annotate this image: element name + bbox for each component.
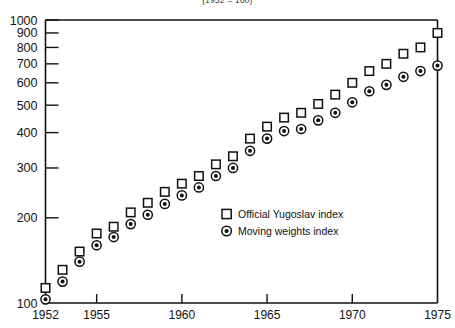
data-point-official-1970 (348, 79, 357, 88)
data-point-official-1960 (178, 179, 187, 188)
data-point-moving-1967-dot (299, 127, 303, 131)
data-point-official-1971 (365, 67, 374, 76)
data-point-moving-1969-dot (333, 111, 337, 115)
data-point-moving-1962-dot (214, 174, 218, 178)
y-tick-label-1000: 1000 (10, 14, 38, 28)
data-point-moving-1961-dot (197, 185, 201, 189)
legend-marker-moving-dot (225, 229, 229, 233)
data-point-official-1963 (229, 152, 238, 161)
data-point-moving-1957-dot (129, 222, 133, 226)
data-point-official-1974 (416, 43, 425, 52)
data-point-moving-1956-dot (112, 235, 116, 239)
data-point-moving-1958-dot (146, 213, 150, 217)
data-point-official-1975 (433, 29, 442, 38)
data-point-official-1965 (263, 122, 272, 131)
data-point-official-1956 (109, 222, 118, 231)
y-tick-label-400: 400 (17, 126, 38, 140)
data-point-official-1968 (314, 100, 323, 109)
data-point-moving-1974-dot (418, 69, 422, 73)
x-tick-label-1965: 1965 (254, 308, 281, 322)
data-point-moving-1973-dot (401, 75, 405, 79)
data-point-official-1964 (246, 134, 255, 143)
data-point-official-1959 (161, 188, 170, 197)
data-point-official-1967 (297, 109, 306, 118)
data-point-moving-1963-dot (231, 166, 235, 170)
data-point-official-1969 (331, 90, 340, 99)
y-tick-label-200: 200 (17, 211, 38, 225)
data-point-official-1954 (75, 247, 84, 256)
data-point-moving-1955-dot (95, 243, 99, 247)
data-point-moving-1975-dot (436, 64, 440, 68)
x-tick-label-1960: 1960 (168, 308, 195, 322)
data-point-official-1952 (41, 284, 50, 293)
x-tick-label-1952: 1952 (32, 308, 59, 322)
data-point-moving-1966-dot (282, 129, 286, 133)
y-tick-label-500: 500 (17, 99, 38, 113)
data-point-moving-1954-dot (78, 260, 82, 264)
data-point-official-1955 (92, 229, 101, 238)
y-tick-label-700: 700 (17, 57, 38, 71)
y-tick-label-800: 800 (17, 41, 38, 55)
chart-plot-area: 1002003004005006007008009001000195219551… (0, 0, 455, 328)
data-point-moving-1952-dot (44, 297, 48, 301)
x-tick-label-1970: 1970 (339, 308, 366, 322)
legend-label-0: Official Yugoslav index (238, 208, 344, 220)
y-tick-label-900: 900 (17, 26, 38, 40)
x-tick-label-1975: 1975 (424, 308, 451, 322)
data-point-moving-1964-dot (248, 149, 252, 153)
data-point-official-1962 (212, 160, 221, 169)
data-point-official-1961 (195, 172, 204, 181)
legend-label-1: Moving weights index (238, 225, 339, 237)
data-point-moving-1960-dot (180, 193, 184, 197)
data-point-official-1958 (144, 199, 153, 208)
data-point-moving-1971-dot (367, 89, 371, 93)
legend-marker-official (222, 209, 231, 218)
data-point-moving-1959-dot (163, 202, 167, 206)
data-point-official-1966 (280, 113, 289, 122)
data-point-moving-1972-dot (384, 83, 388, 87)
y-tick-label-300: 300 (17, 161, 38, 175)
chart-figure: (1952 = 100) 100200300400500600700800900… (0, 0, 455, 328)
y-tick-label-600: 600 (17, 76, 38, 90)
data-point-moving-1968-dot (316, 118, 320, 122)
data-point-moving-1953-dot (61, 280, 65, 284)
data-point-official-1972 (382, 60, 391, 68)
data-point-official-1953 (58, 266, 67, 275)
data-point-moving-1970-dot (350, 100, 354, 104)
data-point-official-1957 (126, 208, 135, 217)
data-point-official-1973 (399, 49, 408, 58)
data-point-moving-1965-dot (265, 137, 269, 141)
x-tick-label-1955: 1955 (83, 308, 110, 322)
